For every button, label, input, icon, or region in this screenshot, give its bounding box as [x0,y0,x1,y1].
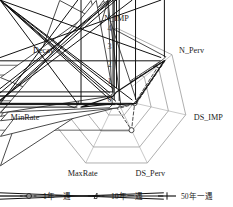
series-layer [0,0,166,166]
legend-50yr[interactable]: 50年一遇 [0,191,213,201]
radial-tick-4: 4 [108,24,112,33]
radial-tick-1: 1 [108,77,112,86]
axis-label-n-imp: N_IMP [104,14,129,23]
axis-label-max-rate: MaxRate [68,169,98,178]
radial-tick-3: 3 [108,42,112,51]
radar-chart-figure: 01234 N_IMPN_PervDS_IMPDS_PervMaxRateMin… [0,0,233,207]
radial-tick-0: 0 [108,95,112,104]
axis-label-n-perv: N_Perv [179,46,205,55]
axis-label-ds-perv: DS_Perv [136,169,166,178]
axis-label-decay: Decay [33,46,55,55]
legend-50yr-label: 50年一遇 [181,191,213,201]
chart-legend[interactable]: 1年一遇10年一遇50年一遇 [0,191,213,201]
axis-label-ds-imp: DS_IMP [194,113,224,122]
axis-label-min-rate: MinRate [11,113,40,122]
datapoint-1-ds-perv [129,128,134,133]
radar-chart-svg: 01234 N_IMPN_PervDS_IMPDS_PervMaxRateMin… [0,0,233,207]
radial-tick-2: 2 [108,60,112,69]
